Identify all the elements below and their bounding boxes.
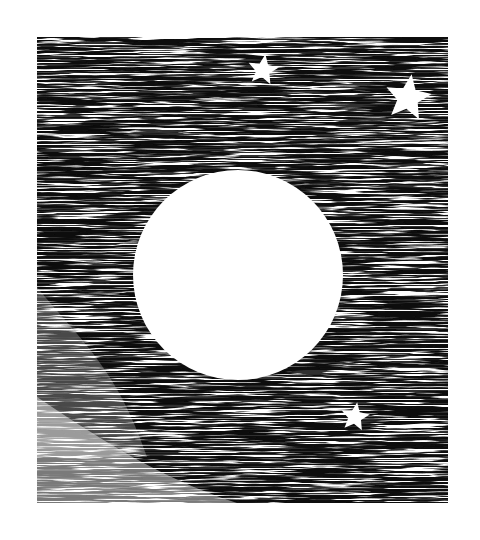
moon-icon bbox=[133, 170, 343, 380]
moon-stars-artwork: Moon and stars engraving bbox=[37, 37, 448, 503]
night-sky-hatching bbox=[37, 37, 448, 503]
